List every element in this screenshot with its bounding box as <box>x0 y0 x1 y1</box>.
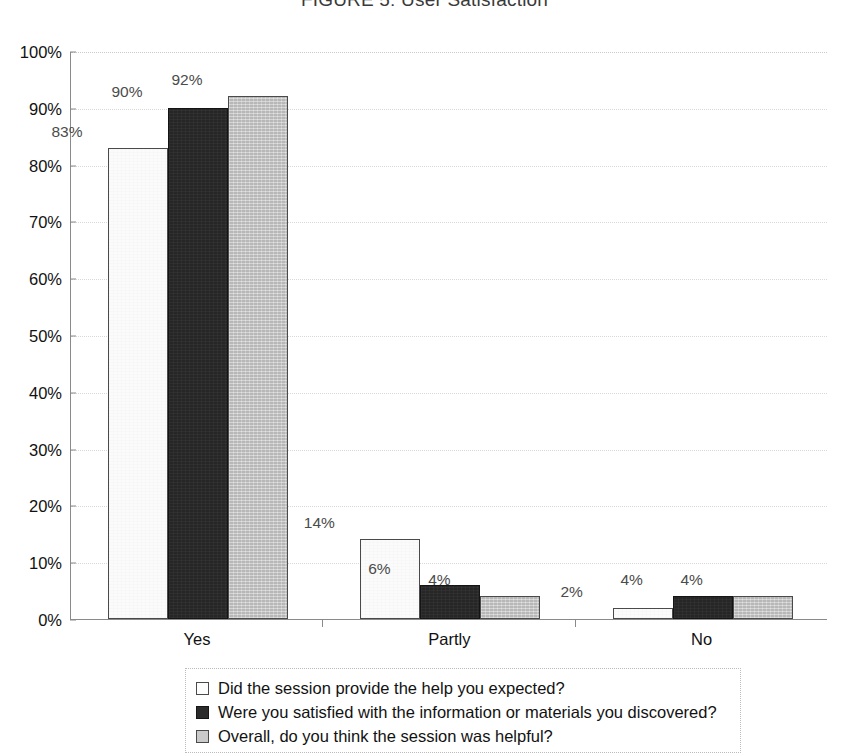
y-axis-tick-label: 90% <box>4 99 62 118</box>
bar-no-series-2 <box>673 596 733 619</box>
y-axis-tick-mark <box>70 392 76 393</box>
bar-partly-series-2 <box>420 585 480 619</box>
y-axis-tick-mark <box>70 279 76 280</box>
bar-value-label: 4% <box>620 571 642 589</box>
bar-yes-series-2 <box>168 108 228 619</box>
bar-value-label: 83% <box>51 123 82 141</box>
bar-value-label: 2% <box>560 583 582 601</box>
bar-value-label: 4% <box>428 571 450 589</box>
legend-item-label: Were you satisfied with the information … <box>218 704 717 721</box>
y-axis-tick-label: 50% <box>4 327 62 346</box>
y-axis-tick-label: 10% <box>4 554 62 573</box>
legend-item-label: Did the session provide the help you exp… <box>218 680 565 697</box>
chart-title: FIGURE 5: User Satisfaction <box>0 0 849 11</box>
y-axis-tick-label: 40% <box>4 383 62 402</box>
y-axis-tick-mark <box>70 108 76 109</box>
legend-item[interactable]: Overall, do you think the session was he… <box>196 724 730 748</box>
gridline <box>71 52 827 53</box>
legend-item[interactable]: Were you satisfied with the information … <box>196 700 730 724</box>
y-axis-tick-mark <box>70 165 76 166</box>
legend-swatch-dark-icon <box>196 706 209 719</box>
x-axis-tick-mark <box>575 620 576 627</box>
y-axis-tick-mark <box>70 506 76 507</box>
bar-value-label: 4% <box>680 571 702 589</box>
y-axis-tick-mark <box>70 620 76 621</box>
x-axis-category-label: Partly <box>428 630 470 649</box>
bar-partly-series-1 <box>360 539 420 619</box>
bar-value-label: 14% <box>304 514 335 532</box>
bar-value-label: 90% <box>111 83 142 101</box>
x-axis-category-label: Yes <box>184 630 211 649</box>
y-axis-tick-label: 100% <box>4 43 62 62</box>
y-axis-tick-mark <box>70 563 76 564</box>
y-axis-tick-label: 80% <box>4 156 62 175</box>
bar-no-series-1 <box>613 608 673 619</box>
y-axis-tick-label: 60% <box>4 270 62 289</box>
x-axis-category-label: No <box>691 630 712 649</box>
y-axis-tick-label: 70% <box>4 213 62 232</box>
bar-partly-series-3 <box>480 596 540 619</box>
bar-value-label: 92% <box>171 71 202 89</box>
y-axis-tick-mark <box>70 222 76 223</box>
plot-area <box>70 52 827 620</box>
legend-swatch-gray-icon <box>196 730 209 743</box>
bar-yes-series-3 <box>228 96 288 619</box>
bar-value-label: 6% <box>368 560 390 578</box>
legend-item-label: Overall, do you think the session was he… <box>218 728 553 745</box>
x-axis-tick-mark <box>322 620 323 627</box>
chart-legend: Did the session provide the help you exp… <box>185 668 741 753</box>
y-axis-tick-mark <box>70 449 76 450</box>
y-axis-tick-label: 20% <box>4 497 62 516</box>
bar-yes-series-1 <box>108 148 168 619</box>
y-axis-tick-mark <box>70 52 76 53</box>
legend-swatch-white-icon <box>196 682 209 695</box>
legend-item[interactable]: Did the session provide the help you exp… <box>196 676 730 700</box>
y-axis-tick-mark <box>70 336 76 337</box>
bar-no-series-3 <box>733 596 793 619</box>
y-axis-tick-label: 0% <box>4 611 62 630</box>
y-axis-tick-label: 30% <box>4 440 62 459</box>
